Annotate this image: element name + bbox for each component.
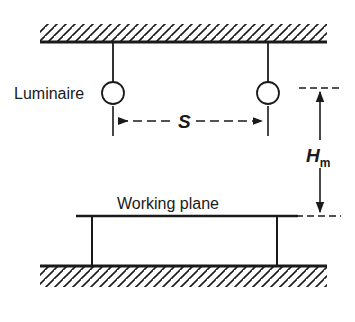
mounting-height-dimension-group: Hm: [296, 88, 341, 216]
mounting-height-subscript: m: [320, 156, 331, 170]
luminaires-group: [102, 82, 279, 104]
floor-hatch: [40, 267, 327, 287]
spacing-symbol-label: S: [178, 111, 191, 132]
floor-group: [40, 266, 327, 287]
ceiling-group: [40, 24, 327, 42]
diagram-canvas: Luminaire S Hm: [0, 0, 355, 322]
spacing-dimension-group: S: [113, 106, 268, 136]
ceiling-hatch: [40, 24, 327, 41]
working-plane-group: [76, 216, 298, 266]
mounting-height-symbol-label: Hm: [306, 145, 330, 170]
luminaire-label: Luminaire: [14, 85, 84, 102]
luminaire-spacing-diagram: Luminaire S Hm: [0, 0, 355, 322]
working-plane-label: Working plane: [117, 195, 219, 212]
luminaire-left-icon: [102, 82, 124, 104]
suspension-rods-group: [113, 42, 268, 82]
luminaire-right-icon: [257, 82, 279, 104]
